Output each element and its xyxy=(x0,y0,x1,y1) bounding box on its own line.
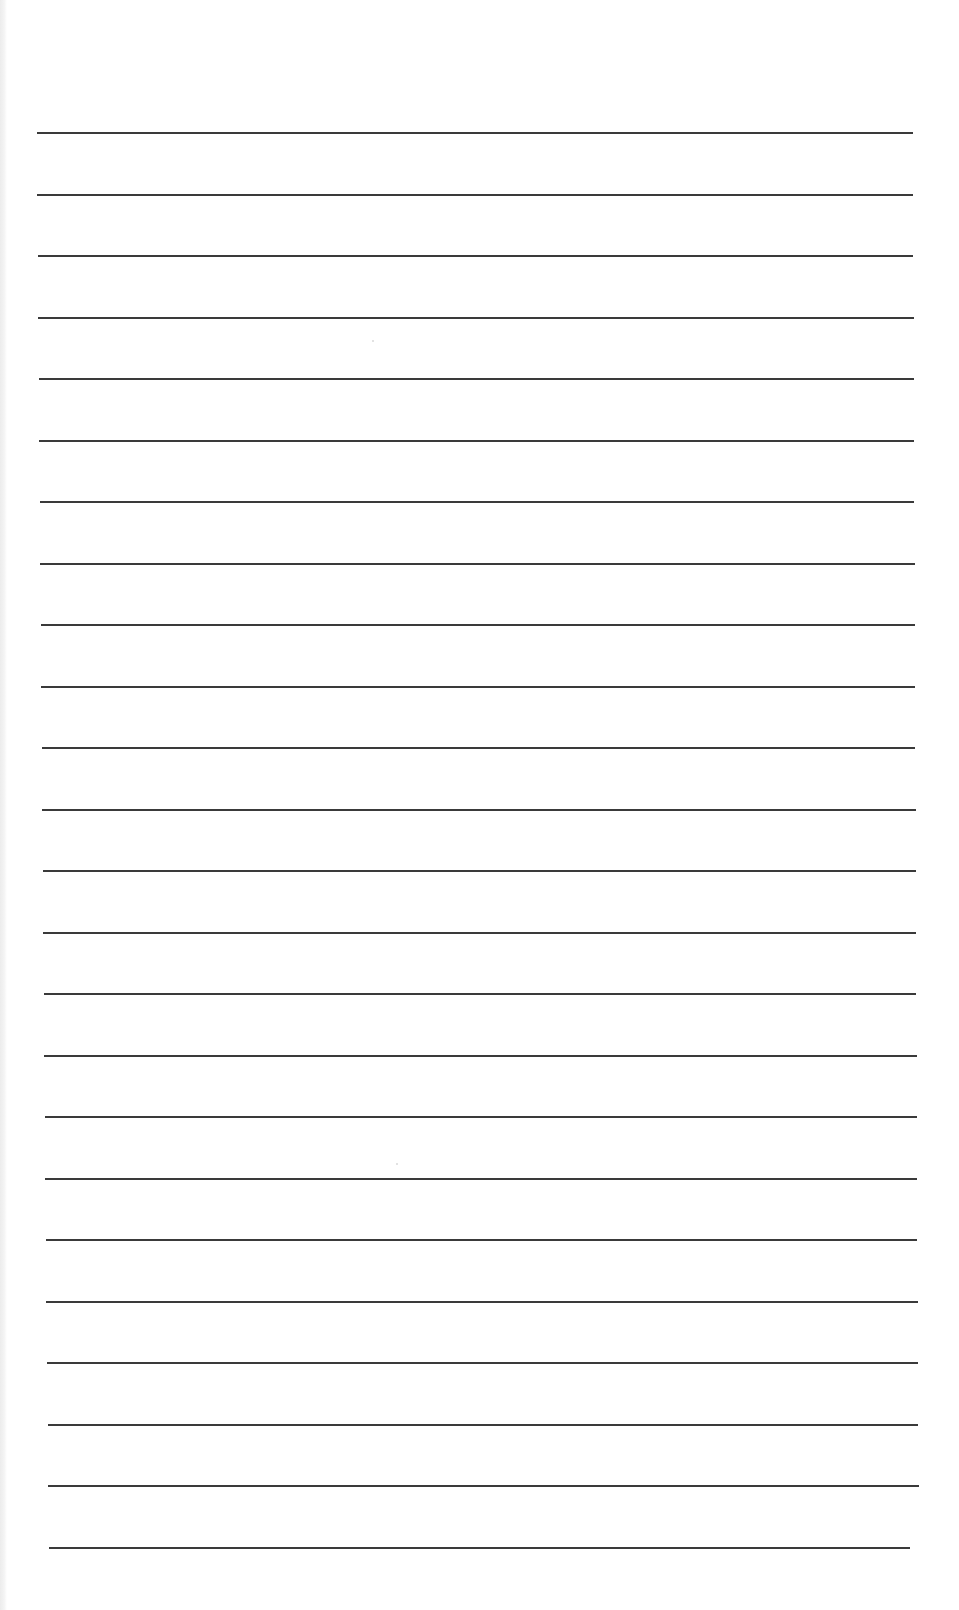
ruled-line xyxy=(37,194,913,196)
ruled-line xyxy=(38,255,913,257)
ruled-line xyxy=(39,440,914,442)
ruled-line xyxy=(41,686,915,688)
ruled-line xyxy=(39,378,914,380)
scan-edge-shadow xyxy=(0,0,7,1610)
ruled-line xyxy=(40,501,914,503)
ruled-line xyxy=(40,563,915,565)
ruled-line xyxy=(45,1178,917,1180)
ruled-line xyxy=(44,993,916,995)
ruled-line xyxy=(49,1547,910,1549)
ruled-line xyxy=(46,1301,918,1303)
ruled-line xyxy=(41,624,915,626)
scan-speck xyxy=(372,340,374,342)
ruled-line xyxy=(48,1485,919,1487)
ruled-line xyxy=(44,1055,917,1057)
ruled-line xyxy=(43,870,916,872)
ruled-line xyxy=(47,1362,918,1364)
ruled-line xyxy=(48,1424,918,1426)
ruled-line xyxy=(37,132,913,134)
ruled-line xyxy=(43,932,916,934)
ruled-line xyxy=(45,1116,917,1118)
ruled-line xyxy=(38,317,914,319)
lined-paper-page xyxy=(0,0,959,1610)
ruled-line xyxy=(42,747,915,749)
scan-speck xyxy=(396,1163,398,1165)
ruled-line xyxy=(46,1239,917,1241)
ruled-line xyxy=(42,809,916,811)
